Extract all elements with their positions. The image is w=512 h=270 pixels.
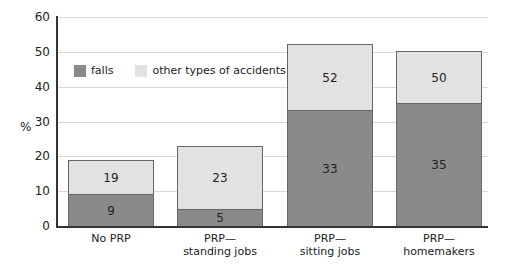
data-label-other: 19 bbox=[103, 171, 118, 185]
segment-other: 19 bbox=[68, 160, 154, 195]
y-tick-60: 60 bbox=[35, 11, 50, 23]
bar-prp-homemakers: 50 35 bbox=[396, 51, 482, 227]
legend-label-falls: falls bbox=[91, 64, 113, 77]
data-label-falls: 9 bbox=[107, 204, 115, 218]
y-tick-50: 50 bbox=[35, 46, 50, 58]
y-axis-label: % bbox=[20, 120, 31, 134]
x-label-line1: PRP— bbox=[270, 232, 390, 245]
y-tick-40: 40 bbox=[35, 81, 50, 93]
legend-swatch-other bbox=[135, 65, 147, 77]
x-axis bbox=[56, 226, 488, 228]
y-tick-10: 10 bbox=[35, 185, 50, 197]
gridline-60 bbox=[58, 17, 488, 18]
x-label-line2: homemakers bbox=[379, 245, 499, 258]
y-tick-0: 0 bbox=[42, 220, 50, 232]
legend-swatch-falls bbox=[74, 65, 86, 77]
x-label-line2: standing jobs bbox=[160, 245, 280, 258]
bar-prp-standing-jobs: 23 5 bbox=[177, 146, 263, 227]
segment-other: 52 bbox=[287, 44, 373, 111]
bar-prp-sitting-jobs: 52 33 bbox=[287, 44, 373, 227]
legend-label-other: other types of accidents bbox=[152, 64, 285, 77]
x-label-line1: PRP— bbox=[160, 232, 280, 245]
x-label-line2: sitting jobs bbox=[270, 245, 390, 258]
legend-item-falls: falls bbox=[74, 64, 113, 77]
x-label-prp-standing-jobs: PRP— standing jobs bbox=[160, 232, 280, 258]
data-label-falls: 35 bbox=[431, 158, 446, 172]
x-label-line1: No PRP bbox=[51, 232, 171, 245]
data-label-other: 23 bbox=[212, 171, 227, 185]
y-tick-30: 30 bbox=[35, 116, 50, 128]
y-tick-20: 20 bbox=[35, 150, 50, 162]
data-label-other: 52 bbox=[322, 71, 337, 85]
segment-falls: 5 bbox=[177, 209, 263, 227]
segment-falls: 9 bbox=[68, 194, 154, 227]
x-label-no-prp: No PRP bbox=[51, 232, 171, 245]
stacked-bar-chart: 0 10 20 30 40 50 60 % falls other types … bbox=[0, 0, 512, 270]
segment-falls: 35 bbox=[396, 103, 482, 227]
segment-falls: 33 bbox=[287, 110, 373, 227]
segment-other: 23 bbox=[177, 146, 263, 210]
x-label-line1: PRP— bbox=[379, 232, 499, 245]
segment-other: 50 bbox=[396, 51, 482, 104]
bar-no-prp: 19 9 bbox=[68, 160, 154, 227]
x-label-prp-sitting-jobs: PRP— sitting jobs bbox=[270, 232, 390, 258]
y-axis bbox=[56, 16, 58, 227]
legend: falls other types of accidents bbox=[74, 64, 308, 77]
x-label-prp-homemakers: PRP— homemakers bbox=[379, 232, 499, 258]
data-label-falls: 5 bbox=[216, 211, 224, 225]
data-label-falls: 33 bbox=[322, 162, 337, 176]
legend-item-other: other types of accidents bbox=[135, 64, 285, 77]
data-label-other: 50 bbox=[431, 71, 446, 85]
